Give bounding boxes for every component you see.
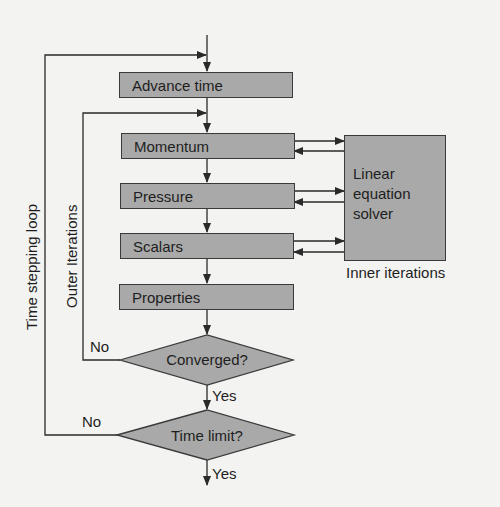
- step-label: Momentum: [134, 138, 209, 155]
- converged-yes-label: Yes: [212, 387, 236, 404]
- timelimit-label: Time limit?: [140, 427, 274, 444]
- solver-line: equation: [353, 184, 445, 204]
- solver-line: solver: [353, 204, 445, 224]
- step-momentum: Momentum: [121, 133, 295, 159]
- step-scalars: Scalars: [120, 233, 294, 259]
- step-advance-time: Advance time: [119, 72, 293, 98]
- converged-no-label: No: [90, 338, 109, 355]
- step-label: Pressure: [133, 188, 193, 205]
- time-stepping-loop-label: Time stepping loop: [23, 204, 40, 330]
- step-pressure: Pressure: [120, 183, 295, 209]
- converged-label: Converged?: [140, 351, 274, 368]
- inner-iterations-label: Inner iterations: [346, 264, 445, 281]
- outer-iterations-label: Outer Iterations: [63, 205, 80, 308]
- step-label: Properties: [132, 289, 200, 306]
- linear-solver-box: Linear equation solver: [344, 135, 446, 261]
- step-label: Advance time: [132, 77, 223, 94]
- step-label: Scalars: [133, 238, 183, 255]
- timelimit-no-label: No: [82, 413, 101, 430]
- solver-line: Linear: [353, 164, 445, 184]
- timelimit-yes-label: Yes: [212, 465, 236, 482]
- step-properties: Properties: [119, 284, 294, 310]
